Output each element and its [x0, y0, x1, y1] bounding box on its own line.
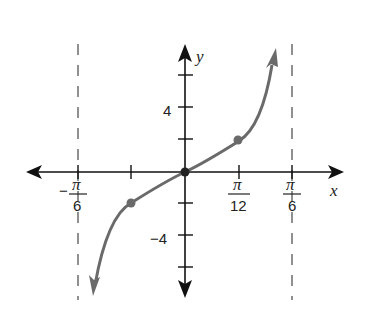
- chart: y x 4 −4 − π 6 π 12 π 6: [0, 0, 365, 317]
- y-axis-label: y: [194, 47, 204, 66]
- y-tick-label-4: 4: [163, 102, 171, 119]
- svg-text:−: −: [59, 182, 68, 199]
- point-neg: [127, 199, 136, 208]
- y-tick-label-neg4: −4: [150, 230, 167, 247]
- svg-text:12: 12: [230, 197, 247, 214]
- x-tick-label-pi-12: π 12: [228, 175, 250, 214]
- point-pos: [234, 136, 243, 145]
- x-tick-label-neg-pi-6: − π 6: [59, 175, 87, 214]
- x-axis-label: x: [329, 181, 338, 200]
- x-tick-label-pi-6: π 6: [283, 175, 301, 214]
- svg-text:6: 6: [288, 197, 296, 214]
- point-origin: [181, 168, 190, 177]
- svg-text:π: π: [72, 175, 81, 194]
- svg-text:6: 6: [73, 197, 81, 214]
- svg-text:π: π: [233, 175, 242, 194]
- svg-text:π: π: [286, 175, 295, 194]
- curve-arrow-bottom: [89, 275, 100, 296]
